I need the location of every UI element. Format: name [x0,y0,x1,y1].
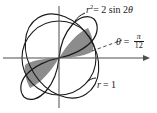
fraction-denominator: 12 [134,42,144,50]
plot-canvas [0,0,157,113]
ray-angle-label: θ=π12 [116,33,144,50]
pi-over-12-fraction: π12 [134,33,144,50]
circle-label-leader-line [86,78,96,83]
lemniscate-equation-label: r2= 2 sin 2θ [86,4,133,15]
ray-theta-symbol: θ [116,37,121,47]
equation-rhs: = 2 sin 2 [93,4,128,15]
shaded-region-quadrant-1 [59,28,93,58]
polar-plot-figure: r2= 2 sin 2θ θ=π12 r= 1 [0,0,157,113]
ray-equals-sign: = [123,37,130,47]
circle-value: = 1 [103,79,116,90]
unit-circle-label: r= 1 [97,80,116,90]
equation-theta-symbol: θ [128,4,133,15]
x-axis-arrowhead [143,55,150,61]
circle-r-symbol: r [97,79,101,90]
fraction-numerator: π [136,33,142,41]
